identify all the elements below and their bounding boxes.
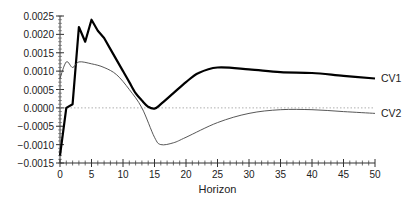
x-axis: 05101520253035404550 [57, 159, 381, 180]
series-label-cv2: CV2 [381, 107, 402, 119]
x-tick-label: 50 [369, 169, 381, 180]
x-tick-label: 25 [212, 169, 224, 180]
x-tick-label: 5 [89, 169, 95, 180]
y-tick-label: 0.0005 [23, 85, 54, 96]
y-tick-label: −0.0015 [18, 158, 55, 169]
x-tick-label: 0 [57, 169, 63, 180]
line-chart: 0.00250.00200.00150.00100.00050.0000−0.0… [0, 0, 418, 205]
x-tick-label: 15 [149, 169, 161, 180]
x-tick-label: 10 [117, 169, 129, 180]
y-tick-label: 0.0020 [23, 29, 54, 40]
y-tick-label: 0.0015 [23, 48, 54, 59]
y-tick-label: 0.0025 [23, 11, 54, 22]
x-tick-label: 20 [180, 169, 192, 180]
x-tick-label: 40 [306, 169, 318, 180]
x-tick-label: 35 [275, 169, 287, 180]
y-tick-label: 0.0010 [23, 66, 54, 77]
y-tick-label: −0.0010 [18, 140, 55, 151]
y-tick-label: 0.0000 [23, 103, 54, 114]
series-line-cv1 [60, 20, 375, 156]
y-axis: 0.00250.00200.00150.00100.00050.0000−0.0… [18, 11, 64, 169]
series-layer: CV1CV2 [60, 20, 402, 156]
x-tick-label: 45 [338, 169, 350, 180]
x-tick-label: 30 [243, 169, 255, 180]
y-tick-label: −0.0005 [18, 121, 55, 132]
series-label-cv1: CV1 [381, 72, 402, 84]
x-axis-label: Horizon [199, 183, 237, 195]
